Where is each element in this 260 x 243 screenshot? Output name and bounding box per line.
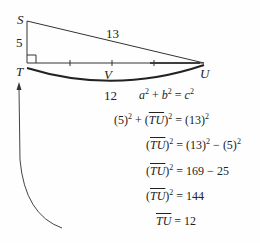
right-angle-marker [27, 55, 36, 63]
exp: 2 [237, 137, 241, 146]
segment-TU: TU [149, 113, 164, 127]
side-label-ST: 5 [16, 35, 23, 50]
segment-TU: TU [150, 138, 165, 152]
eq-op: = [172, 88, 185, 102]
exp: 2 [205, 112, 209, 121]
segment-TU: TU [150, 164, 165, 178]
segment-TU: TU [150, 189, 165, 203]
equation-5: (TU)2 = 144 [146, 188, 204, 204]
eq-term: − (5) [210, 138, 237, 152]
eq-term: = (13) [172, 113, 205, 127]
equation-4: (TU)2 = 169 − 25 [146, 163, 229, 179]
arrow-curve [19, 88, 62, 228]
exp: 2 [190, 87, 194, 96]
point-label-T: T [16, 64, 24, 79]
point-label-V: V [104, 67, 114, 82]
eq-op: + [132, 113, 145, 127]
eq-op: + [149, 88, 162, 102]
point-label-S: S [17, 12, 24, 27]
segment-TU: TU [156, 214, 171, 228]
eq-term: = 144 [173, 189, 204, 203]
arrow-head-icon [17, 82, 22, 90]
equation-3: (TU)2 = (13)2 − (5)2 [146, 137, 241, 153]
equation-1: a2 + b2 = c2 [139, 87, 194, 103]
equation-6: TU = 12 [156, 214, 196, 229]
side-label-TU: 12 [104, 88, 117, 103]
eq-term: = 169 − 25 [173, 164, 229, 178]
equation-2: (5)2 + (TU)2 = (13)2 [114, 112, 209, 128]
eq-term: (5) [114, 113, 128, 127]
brace-curve [27, 65, 204, 81]
eq-term: = 12 [171, 214, 196, 228]
side-label-SU: 13 [106, 26, 119, 41]
pythagorean-diagram: S T V U 5 13 12 a2 + b2 = c2 (5)2 + (TU)… [0, 0, 260, 243]
point-label-U: U [200, 66, 211, 81]
eq-term: = (13) [173, 138, 206, 152]
